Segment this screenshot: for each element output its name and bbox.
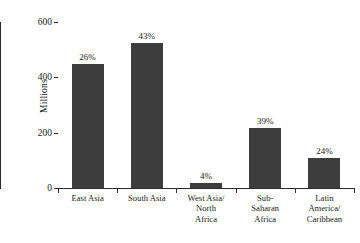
category-label-line: North <box>176 203 235 213</box>
y-axis-tick-mark <box>54 22 58 23</box>
y-axis-tick-label: 0 <box>47 183 52 193</box>
bar-value-label: 24% <box>316 146 333 156</box>
category-label-line: Latin <box>295 193 354 203</box>
category-label-line: Africa <box>236 214 295 224</box>
bar-value-label: 26% <box>79 52 96 62</box>
y-axis-tick-label: 600 <box>38 17 52 27</box>
bar: 43% <box>131 43 163 188</box>
y-axis-tick-label: 200 <box>38 128 52 138</box>
bar: 24% <box>308 158 340 188</box>
x-axis-category-label: South Asia <box>117 193 176 203</box>
bar-value-label: 39% <box>257 116 274 126</box>
bar-value-label: 43% <box>139 31 156 41</box>
bar: 26% <box>72 64 104 188</box>
category-label-line: Caribbean <box>295 214 354 224</box>
x-axis-category-label: East Asia <box>58 193 117 203</box>
x-axis-category-label: Sub-SaharanAfrica <box>236 193 295 224</box>
category-label-line: Africa <box>176 214 235 224</box>
bar-value-label: 4% <box>200 171 212 181</box>
category-label-line: Sub- <box>236 193 295 203</box>
y-axis-tick-label: 400 <box>38 72 52 82</box>
x-axis-category-label: LatinAmerica/Caribbean <box>295 193 354 224</box>
y-axis-tick-mark <box>54 77 58 78</box>
category-label-line: East Asia <box>58 193 117 203</box>
x-axis-line <box>58 188 355 189</box>
bar: 4% <box>190 183 222 188</box>
y-axis-tick-mark <box>54 133 58 134</box>
x-axis-tick-mark <box>354 188 355 193</box>
bar-chart: Millions 0200400600 26%43%4%39%24% East … <box>0 0 360 243</box>
bar: 39% <box>249 128 281 188</box>
category-label-line: West Asia/ <box>176 193 235 203</box>
x-axis-category-label: West Asia/NorthAfrica <box>176 193 235 224</box>
plot-area: 0200400600 26%43%4%39%24% <box>58 22 354 188</box>
category-label-line: Saharan <box>236 203 295 213</box>
category-label-line: America/ <box>295 203 354 213</box>
y-axis-line <box>0 22 1 189</box>
category-label-line: South Asia <box>117 193 176 203</box>
